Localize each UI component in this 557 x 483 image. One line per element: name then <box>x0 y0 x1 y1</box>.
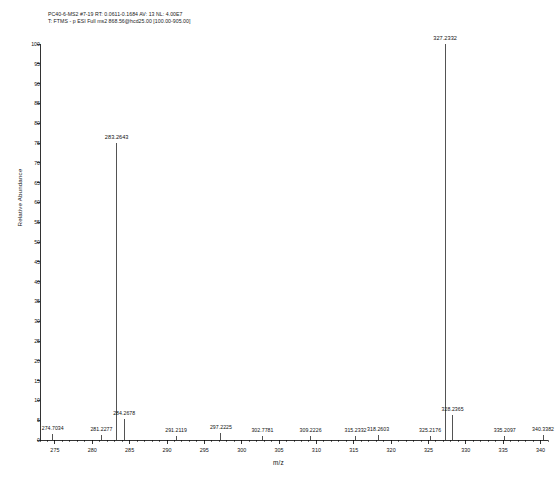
mass-spectrum-plot <box>0 0 557 483</box>
